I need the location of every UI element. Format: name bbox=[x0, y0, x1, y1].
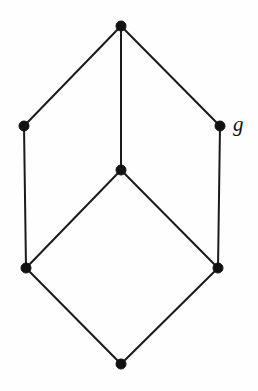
lattice-graph-canvas bbox=[0, 0, 258, 391]
vertex-label-g: g bbox=[233, 114, 244, 135]
edge-bottomright-bottom bbox=[121, 268, 218, 364]
bottom-vertex bbox=[116, 359, 126, 369]
edge-middle-bottomright bbox=[121, 170, 218, 268]
middle-vertex bbox=[116, 165, 126, 175]
bottom-right-vertex bbox=[213, 263, 223, 273]
edge-bottomleft-bottom bbox=[26, 268, 121, 364]
edge-right-bottomright bbox=[218, 126, 220, 268]
right-vertex bbox=[215, 121, 225, 131]
edge-layer bbox=[24, 26, 220, 364]
edge-left-bottomleft bbox=[24, 126, 26, 268]
edge-top-left bbox=[24, 26, 121, 126]
top-vertex bbox=[116, 21, 126, 31]
bottom-left-vertex bbox=[21, 263, 31, 273]
edge-middle-bottomleft bbox=[26, 170, 121, 268]
left-vertex bbox=[19, 121, 29, 131]
edge-top-right bbox=[121, 26, 220, 126]
hasse-diagram-figure: g bbox=[0, 0, 258, 391]
